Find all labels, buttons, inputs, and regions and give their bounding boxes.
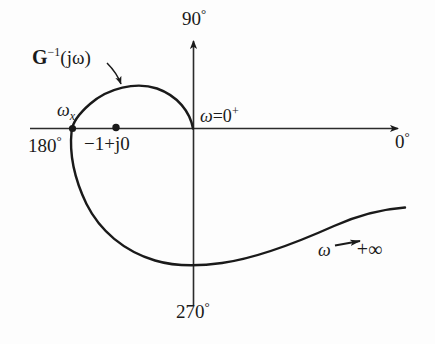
angle-90-value: 90 [182,8,201,29]
omega-infinity-value: +∞ [357,238,383,260]
omega-x-label: ωx [57,101,75,122]
critical-point-text: −1+j0 [84,133,130,154]
degree-symbol-180: ° [57,133,62,148]
omega-zero-equals: =0 [213,106,232,126]
omega-zero-plus-label: ω=0+ [200,105,239,125]
angle-180-value: 180 [28,135,57,156]
degree-symbol-0: ° [405,129,410,144]
angle-180-label: 180° [28,134,62,155]
angle-0-value: 0 [395,131,405,152]
critical-point-label: −1+j0 [84,134,130,153]
angle-270-value: 270 [176,301,205,322]
degree-symbol-90: ° [201,6,206,21]
omega-x-point-marker [69,125,76,132]
angle-270-label: 270° [176,300,210,321]
angle-0-label: 0° [395,130,410,151]
omega-zero-superscript-plus: + [232,104,239,118]
nyquist-inverse-polar-plot-figure: G−1(jω) ωx 180° −1+j0 ω=0+ 90° 270° 0° ω… [0,0,435,344]
curve-name-argument: (jω) [60,47,90,68]
degree-symbol-270: ° [205,299,210,314]
angle-90-label: 90° [182,7,206,28]
critical-point-marker [112,124,119,131]
omega-x-subscript: x [70,109,75,123]
omega-x-symbol: ω [57,100,70,120]
curve-name-label: G−1(jω) [32,46,91,67]
omega-infinity-symbol: ω [318,240,331,260]
curve-name-g: G [32,46,48,68]
omega-zero-symbol: ω [200,106,213,126]
curve-label-leader-arrow [107,63,121,84]
omega-infinity-label: ω+∞ [318,239,382,259]
curve-name-exponent: −1 [48,45,61,59]
